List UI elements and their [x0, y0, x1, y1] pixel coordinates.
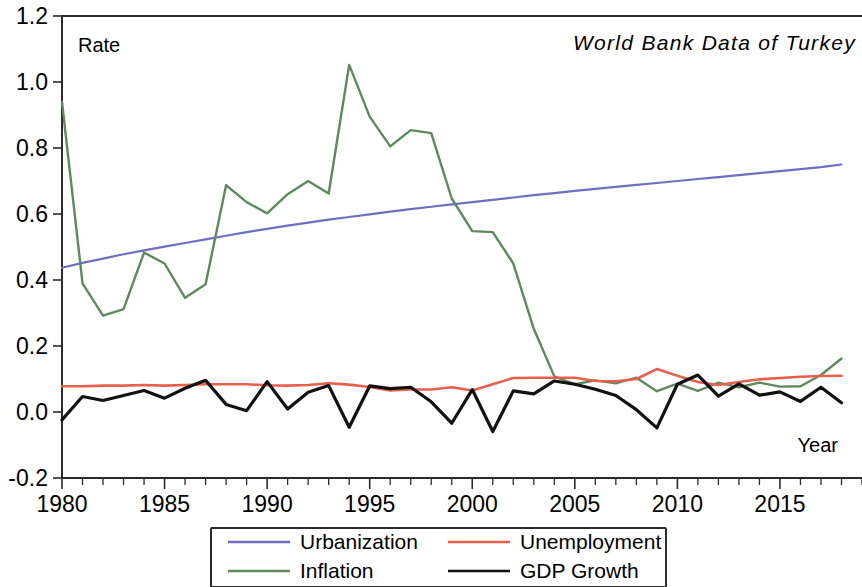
x-tick-label: 1980 [36, 491, 87, 517]
x-axis: 19801985199019952000200520102015 [36, 478, 862, 517]
y-tick-label: -0.2 [8, 465, 48, 491]
x-tick-label: 2000 [447, 491, 498, 517]
legend-label-unemployment: Unemployment [520, 530, 661, 553]
legend-label-inflation: Inflation [300, 559, 374, 582]
line-chart: -0.20.00.20.40.60.81.01.2 19801985199019… [0, 0, 862, 587]
legend-label-urbanization: Urbanization [300, 530, 418, 553]
chart-container: -0.20.00.20.40.60.81.01.2 19801985199019… [0, 0, 862, 587]
x-axis-annotation: Year [798, 434, 839, 456]
y-tick-label: 1.2 [16, 3, 48, 29]
y-axis: -0.20.00.20.40.60.81.01.2 [8, 3, 62, 491]
x-tick-label: 2010 [652, 491, 703, 517]
series-layer [62, 65, 841, 432]
x-tick-label: 1990 [242, 491, 293, 517]
x-tick-label: 2005 [549, 491, 600, 517]
y-tick-label: 0.6 [16, 201, 48, 227]
series-line-urbanization [62, 165, 841, 268]
x-tick-label: 1995 [344, 491, 395, 517]
y-tick-label: 0.8 [16, 135, 48, 161]
y-tick-label: 0.0 [16, 399, 48, 425]
y-tick-label: 0.2 [16, 333, 48, 359]
chart-title: World Bank Data of Turkey [573, 31, 856, 54]
x-tick-label: 2015 [754, 491, 805, 517]
y-tick-label: 0.4 [16, 267, 48, 293]
x-tick-label: 1985 [139, 491, 190, 517]
y-tick-label: 1.0 [16, 69, 48, 95]
series-line-unemployment [62, 369, 841, 390]
legend-label-gdp-growth: GDP Growth [520, 559, 639, 582]
y-axis-annotation: Rate [78, 34, 120, 56]
chart-legend: UrbanizationUnemploymentInflationGDP Gro… [211, 528, 666, 587]
series-line-inflation [62, 65, 841, 391]
